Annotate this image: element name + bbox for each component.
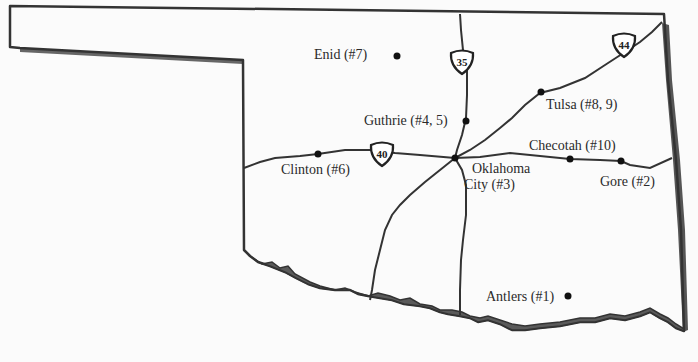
city-label-clinton: Clinton (#6) bbox=[281, 162, 350, 177]
svg-text:44: 44 bbox=[619, 39, 631, 51]
svg-text:40: 40 bbox=[377, 148, 389, 160]
red-river bbox=[250, 256, 684, 331]
city-label-oklahoma-city-line1: Oklahoma bbox=[472, 161, 530, 176]
oklahoma-city-dot bbox=[452, 155, 459, 162]
interstate-35-shield-icon: 35 bbox=[451, 51, 473, 75]
antlers-dot bbox=[565, 293, 572, 300]
interstate-40-shield-icon: 40 bbox=[371, 143, 393, 167]
oklahoma-map: 35 44 40 Enid (#7) Guthrie (#4, 5) Tulsa… bbox=[0, 0, 698, 362]
city-label-tulsa: Tulsa (#8, 9) bbox=[546, 97, 617, 112]
city-label-enid: Enid (#7) bbox=[314, 47, 367, 62]
city-dots bbox=[315, 53, 625, 300]
svg-text:35: 35 bbox=[457, 56, 469, 68]
city-label-oklahoma-city-line2: City (#3) bbox=[464, 177, 515, 192]
east-border-shadow bbox=[662, 23, 688, 332]
enid-dot bbox=[394, 53, 401, 60]
gore-dot bbox=[618, 158, 625, 165]
city-label-antlers: Antlers (#1) bbox=[486, 289, 554, 304]
city-label-guthrie: Guthrie (#4, 5) bbox=[364, 113, 448, 128]
checotah-dot bbox=[567, 156, 574, 163]
tulsa-dot bbox=[538, 89, 545, 96]
interstate-44-shield-icon: 44 bbox=[613, 34, 635, 58]
city-label-gore: Gore (#2) bbox=[600, 174, 655, 189]
city-label-checotah: Checotah (#10) bbox=[529, 138, 616, 153]
clinton-dot bbox=[315, 151, 322, 158]
guthrie-dot bbox=[463, 118, 470, 125]
